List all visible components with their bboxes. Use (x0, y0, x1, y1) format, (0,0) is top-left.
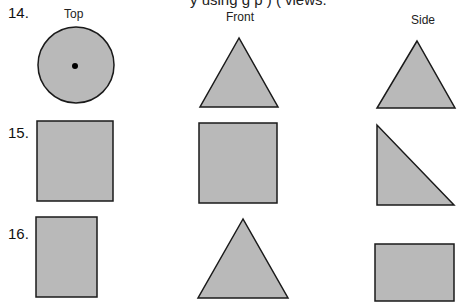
p14-center-dot (72, 63, 78, 69)
p15-top-square (37, 121, 113, 201)
p14-front-triangle (200, 38, 278, 107)
views-diagram (0, 0, 466, 307)
p16-front-triangle (198, 219, 288, 298)
p16-top-rectangle (36, 217, 97, 297)
p15-front-square (199, 123, 277, 203)
p14-side-triangle (377, 41, 455, 108)
p16-side-rectangle (375, 244, 454, 301)
p15-side-right-triangle (377, 125, 454, 205)
